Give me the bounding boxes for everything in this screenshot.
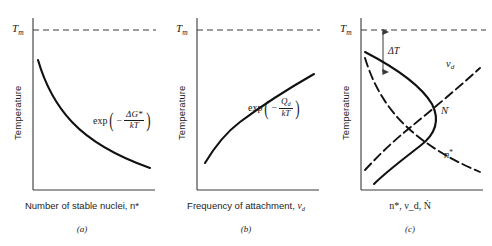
y-axis-label-c: Temperature <box>340 40 351 140</box>
curve-n-star <box>365 58 480 172</box>
annotation-exp-dg: exp ( − ΔG* kT ) <box>93 110 152 131</box>
curve-label-n-star: n* <box>444 148 453 160</box>
panel-b: Tm Temperature exp ( − Qd kT ) Frequency… <box>164 0 328 246</box>
curve-n-dot <box>365 52 436 184</box>
tm-label-b: Tm <box>176 22 188 37</box>
x-axis-label-a: Number of stable nuclei, n* <box>0 200 164 211</box>
y-axis-label-b: Temperature <box>176 40 187 140</box>
curve-label-n-dot: Ṅ <box>441 105 448 116</box>
panel-tag-a: (a) <box>0 224 164 234</box>
x-axis-label-c: n*, ν_d, Ṅ <box>328 200 492 211</box>
curve-label-nu-d: νd <box>446 58 454 71</box>
tm-label-a: Tm <box>12 22 24 37</box>
y-axis-label-a: Temperature <box>12 40 23 140</box>
annotation-exp-qd: exp ( − Qd kT ) <box>248 97 301 118</box>
panel-tag-b: (b) <box>164 224 328 234</box>
x-axis-label-b: Frequency of attachment, νd <box>164 200 328 212</box>
panel-a: Tm Temperature exp ( − ΔG* kT ) Number o… <box>0 0 164 246</box>
delta-t-label: ΔT <box>388 45 399 56</box>
tm-label-c: Tm <box>340 22 352 37</box>
panel-tag-c: (c) <box>328 224 492 234</box>
curve-nu-d <box>365 68 480 170</box>
panel-c: Tm ΔT Temperature νd Ṅ n* n*, ν_d, Ṅ (… <box>328 0 492 246</box>
